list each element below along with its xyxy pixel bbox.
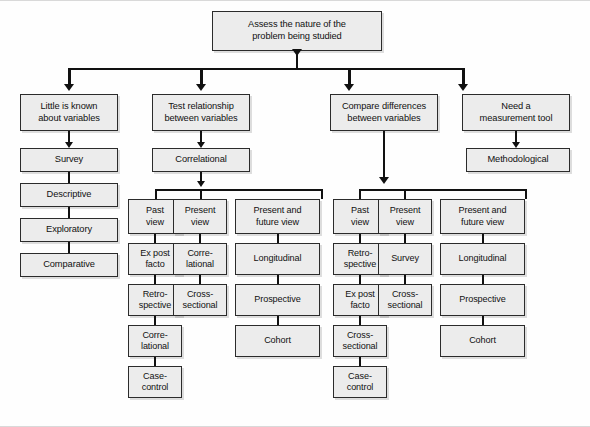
arrow-branch-2 bbox=[196, 84, 206, 91]
connector-survey-descriptive bbox=[68, 172, 71, 183]
node-correlational-present-left[interactable]: Corre- lational bbox=[173, 243, 227, 275]
node-present-view-left[interactable]: Present view bbox=[173, 199, 227, 234]
node-correlational[interactable]: Correlational bbox=[152, 148, 250, 172]
connector-drop-col-present-left bbox=[200, 189, 202, 199]
connector-drop-col-presfut-left bbox=[321, 189, 323, 199]
node-present-future-left[interactable]: Present and future view bbox=[235, 199, 320, 234]
connector-compare-long-stem bbox=[383, 131, 386, 179]
node-present-view-right[interactable]: Present view bbox=[378, 199, 432, 234]
node-longitudinal-left[interactable]: Longitudinal bbox=[235, 243, 320, 275]
connector-left-group-bus bbox=[155, 189, 323, 191]
arrow-compare-long-stem bbox=[379, 177, 389, 184]
node-prospective-right[interactable]: Prospective bbox=[440, 284, 525, 316]
node-branch-measurement-tool[interactable]: Need a measurement tool bbox=[462, 94, 570, 131]
connector-level1-bus bbox=[68, 68, 464, 70]
connector-pfleft-1 bbox=[277, 234, 279, 243]
connector-pastleft-3 bbox=[154, 316, 156, 325]
connector-pastright-2 bbox=[359, 275, 361, 284]
node-cohort-left[interactable]: Cohort bbox=[235, 325, 320, 357]
connector-exploratory-comparative bbox=[68, 242, 71, 253]
arrow-correlational-stem bbox=[197, 181, 205, 187]
node-cohort-right[interactable]: Cohort bbox=[440, 325, 525, 357]
node-branch-little-known[interactable]: Little is known about variables bbox=[20, 94, 118, 131]
node-cross-sectional-present-right[interactable]: Cross- sectional bbox=[378, 284, 432, 316]
node-branch-compare-differences[interactable]: Compare differences between variables bbox=[330, 94, 438, 131]
node-methodological[interactable]: Methodological bbox=[466, 148, 570, 172]
connector-drop-col-past-left bbox=[155, 189, 157, 199]
arrow-branch-3 bbox=[344, 84, 354, 91]
arrow-root-stem bbox=[292, 49, 302, 56]
connector-presright-2 bbox=[404, 275, 406, 284]
node-survey-right[interactable]: Survey bbox=[378, 243, 432, 275]
node-descriptive[interactable]: Descriptive bbox=[20, 183, 118, 207]
connector-pfleft-2 bbox=[277, 275, 279, 284]
node-cross-sectional-right[interactable]: Cross- sectional bbox=[333, 325, 387, 357]
node-case-control-right[interactable]: Case- control bbox=[333, 366, 387, 398]
connector-pfleft-3 bbox=[277, 316, 279, 325]
connector-presright-1 bbox=[404, 234, 406, 243]
connector-pastright-3 bbox=[359, 316, 361, 325]
node-prospective-left[interactable]: Prospective bbox=[235, 284, 320, 316]
node-present-future-right[interactable]: Present and future view bbox=[440, 199, 525, 234]
node-root[interactable]: Assess the nature of the problem being s… bbox=[212, 11, 382, 51]
connector-pfright-2 bbox=[482, 275, 484, 284]
flowchart-canvas: Assess the nature of the problem being s… bbox=[0, 0, 590, 427]
connector-pfright-3 bbox=[482, 316, 484, 325]
connector-drop-col-present-right bbox=[404, 189, 406, 199]
node-case-control-left[interactable]: Case- control bbox=[128, 366, 182, 398]
node-cross-sectional-left[interactable]: Cross- sectional bbox=[173, 284, 227, 316]
connector-presleft-1 bbox=[199, 234, 201, 243]
connector-drop-col-presfut-right bbox=[525, 189, 527, 199]
connector-pfright-1 bbox=[482, 234, 484, 243]
connector-descriptive-exploratory bbox=[68, 207, 71, 218]
connector-pastright-4 bbox=[359, 357, 361, 366]
connector-presleft-2 bbox=[199, 275, 201, 284]
connector-drop-col-past-right bbox=[359, 189, 361, 199]
node-comparative[interactable]: Comparative bbox=[20, 253, 118, 277]
node-longitudinal-right[interactable]: Longitudinal bbox=[440, 243, 525, 275]
node-correlational-left[interactable]: Corre- lational bbox=[128, 325, 182, 357]
arrow-branch-1 bbox=[64, 84, 74, 91]
node-exploratory[interactable]: Exploratory bbox=[20, 218, 118, 242]
connector-right-group-bus bbox=[359, 189, 527, 191]
connector-pastleft-2 bbox=[154, 275, 156, 284]
arrow-branch-4 bbox=[458, 84, 468, 91]
node-branch-test-relationship[interactable]: Test relationship between variables bbox=[152, 94, 250, 131]
connector-pastleft-4 bbox=[154, 357, 156, 366]
connector-pastleft-1 bbox=[154, 234, 156, 243]
node-survey[interactable]: Survey bbox=[20, 148, 118, 172]
connector-pastright-1 bbox=[359, 234, 361, 243]
